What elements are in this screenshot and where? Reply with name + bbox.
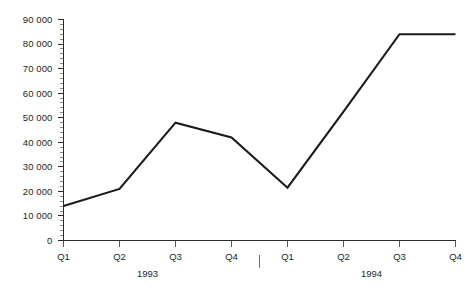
y-axis-tick-label: 60 000 — [23, 88, 53, 99]
y-axis-tick-label: 80 000 — [23, 38, 53, 49]
x-axis-group-label: 1993 — [137, 268, 158, 279]
x-axis-tick-label: Q3 — [393, 251, 406, 262]
chart-canvas: 010 00020 00030 00040 00050 00060 00070 … — [0, 0, 475, 289]
y-axis-minor-ticks — [60, 24, 64, 235]
y-axis-tick-label: 40 000 — [23, 137, 53, 148]
x-axis-tick-label: Q4 — [449, 251, 462, 262]
y-axis-tick-label: 90 000 — [23, 14, 53, 25]
y-axis-tick-label: 70 000 — [23, 63, 53, 74]
x-axis-ticks — [64, 241, 456, 247]
x-axis-group-labels: 19931994 — [137, 268, 382, 279]
x-axis-tick-label: Q3 — [169, 251, 182, 262]
x-axis-group-label: 1994 — [361, 268, 382, 279]
y-axis-tick-label: 50 000 — [23, 112, 53, 123]
y-axis-tick-labels: 010 00020 00030 00040 00050 00060 00070 … — [23, 14, 53, 246]
x-axis-tick-label: Q1 — [57, 251, 70, 262]
x-axis-tick-label: Q1 — [281, 251, 294, 262]
y-axis-tick-label: 10 000 — [23, 210, 53, 221]
x-axis-tick-label: Q4 — [225, 251, 238, 262]
y-axis-tick-label: 0 — [47, 235, 52, 246]
x-axis-tick-label: Q2 — [337, 251, 350, 262]
data-series-line — [64, 34, 456, 206]
y-axis-tick-label: 30 000 — [23, 161, 53, 172]
line-chart: 010 00020 00030 00040 00050 00060 00070 … — [0, 0, 475, 289]
y-axis-tick-label: 20 000 — [23, 186, 53, 197]
y-axis-major-ticks — [58, 20, 64, 241]
x-axis-tick-label: Q2 — [113, 251, 126, 262]
